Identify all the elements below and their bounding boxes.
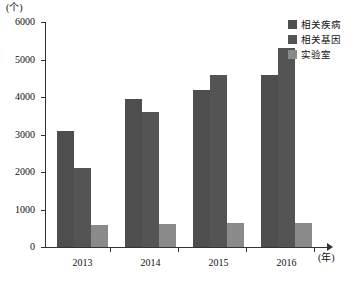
- bar: [193, 90, 210, 248]
- x-axis-tick-label: 2016: [255, 256, 318, 269]
- y-axis-tick: 3000: [41, 135, 46, 136]
- bar: [210, 75, 227, 248]
- legend-item: 相关基因: [288, 32, 356, 47]
- x-axis-tick-label: 2015: [187, 256, 250, 269]
- plot-area: 0100020003000400050006000 20132014201520…: [45, 22, 317, 247]
- x-axis-tick: [314, 247, 315, 252]
- bar: [57, 131, 74, 247]
- x-axis-tick: [246, 247, 247, 252]
- y-axis-tick: 0: [41, 247, 46, 248]
- legend-item: 相关疾病: [288, 17, 356, 32]
- legend-item: 实验室: [288, 47, 356, 62]
- y-axis-tick-label: 2000: [15, 165, 35, 178]
- legend-swatch-icon: [288, 50, 297, 59]
- x-axis-tick-label: 2013: [51, 256, 114, 269]
- legend-label: 相关疾病: [301, 19, 341, 30]
- legend-label: 相关基因: [301, 34, 341, 45]
- x-axis-line: [45, 247, 327, 248]
- y-axis-tick-label: 4000: [15, 90, 35, 103]
- legend-label: 实验室: [301, 49, 331, 60]
- y-axis-tick-label: 1000: [15, 203, 35, 216]
- y-axis-tick-label: 3000: [15, 128, 35, 141]
- y-axis-tick-label: 0: [30, 240, 35, 253]
- x-axis-arrow-icon: [327, 243, 333, 251]
- y-axis-unit-label: (个): [6, 2, 23, 14]
- legend-swatch-icon: [288, 20, 297, 29]
- bar: [227, 223, 244, 247]
- y-axis-tick-label: 5000: [15, 53, 35, 66]
- chart-legend: 相关疾病相关基因实验室: [288, 17, 356, 62]
- bar: [142, 112, 159, 247]
- bar: [295, 223, 312, 247]
- y-axis-tick-label: 6000: [15, 15, 35, 28]
- y-axis-tick: 1000: [41, 210, 46, 211]
- x-axis-tick: [110, 247, 111, 252]
- legend-swatch-icon: [288, 35, 297, 44]
- x-axis-tick-label: 2014: [119, 256, 182, 269]
- bar: [125, 99, 142, 247]
- bar: [91, 225, 108, 248]
- y-axis-tick: 5000: [41, 60, 46, 61]
- y-axis-tick: 2000: [41, 172, 46, 173]
- x-axis-unit-label: (年): [318, 252, 335, 264]
- y-axis-tick: 4000: [41, 97, 46, 98]
- bar: [278, 48, 295, 247]
- y-axis-tick: 6000: [41, 22, 46, 23]
- bar-chart: (个) (年) 0100020003000400050006000 201320…: [0, 0, 357, 284]
- x-axis-tick: [178, 247, 179, 252]
- bar: [159, 224, 176, 247]
- bar: [74, 168, 91, 247]
- bar: [261, 75, 278, 248]
